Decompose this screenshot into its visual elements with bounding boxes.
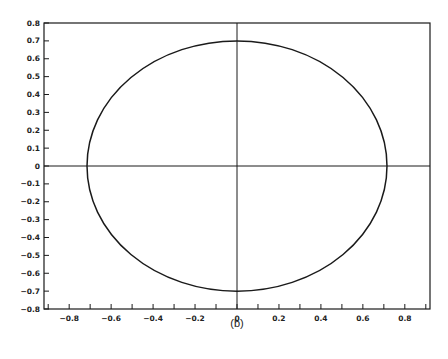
zero-axes (44, 23, 430, 309)
y-tick-label: −0.8 (20, 305, 40, 314)
y-tick-label: −0.7 (20, 287, 40, 296)
y-tick-label: 0.6 (27, 54, 40, 63)
y-tick-label: 0.1 (27, 144, 40, 153)
x-tick-label: 0.2 (272, 314, 285, 323)
y-tick-label: −0.1 (20, 179, 40, 188)
y-tick-label: 0.3 (27, 108, 40, 117)
x-tick-label: 0.8 (398, 314, 411, 323)
x-tick-label: −0.4 (143, 314, 163, 323)
y-tick-label: 0.4 (27, 90, 40, 99)
x-tick-label: −0.6 (101, 314, 121, 323)
y-tick-label: 0.2 (27, 126, 40, 135)
x-tick-label: −0.8 (59, 314, 79, 323)
chart: 0.80.70.60.50.40.30.20.10−0.1−0.2−0.3−0.… (0, 0, 448, 359)
x-tick-label: 0.6 (356, 314, 369, 323)
y-tick-label: −0.5 (20, 251, 40, 260)
y-tick-label: 0.8 (27, 19, 40, 28)
y-tick-label: −0.4 (20, 233, 40, 242)
y-tick-label: −0.3 (20, 215, 40, 224)
y-tick-label: 0 (35, 162, 40, 171)
x-tick-label: −0.2 (185, 314, 205, 323)
y-tick-label: 0.7 (27, 36, 40, 45)
figure-caption: (b) (230, 317, 243, 329)
y-tick-label: 0.5 (27, 72, 40, 81)
y-tick-label: −0.6 (20, 269, 40, 278)
y-tick-label: −0.2 (20, 197, 40, 206)
x-tick-label: 0.4 (314, 314, 327, 323)
